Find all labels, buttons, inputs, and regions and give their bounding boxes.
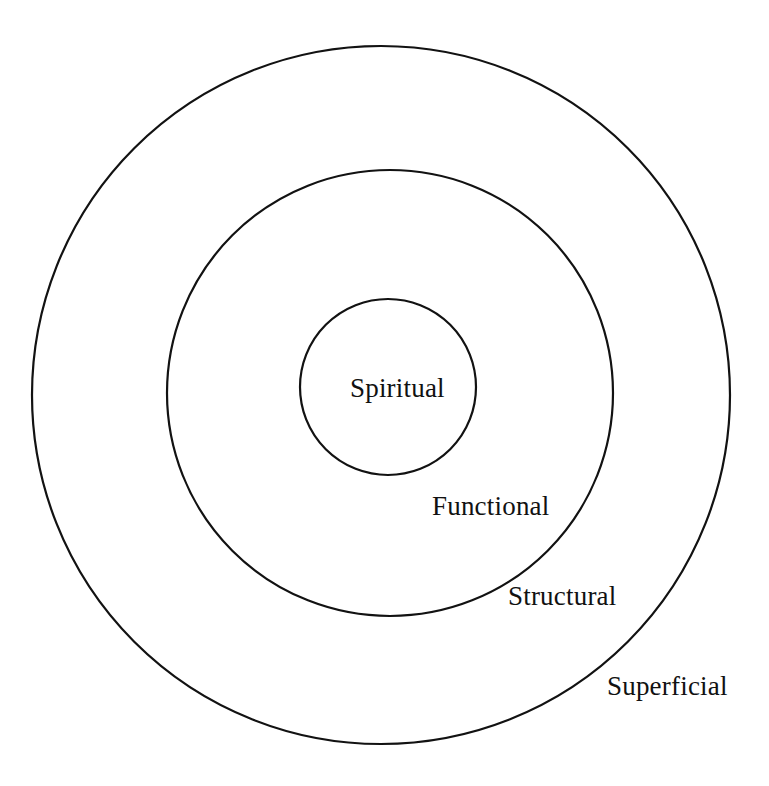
concentric-circles-diagram: Spiritual Functional Structural Superfic… [0,0,769,786]
ring-label-superficial: Superficial [607,673,728,700]
ring-label-functional: Functional [432,493,550,520]
ring-label-spiritual: Spiritual [350,375,445,402]
ring-label-structural: Structural [508,583,616,610]
